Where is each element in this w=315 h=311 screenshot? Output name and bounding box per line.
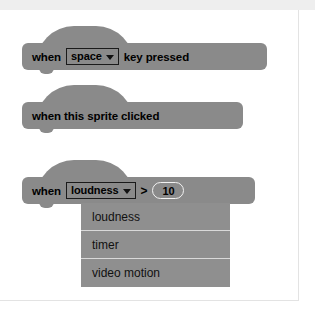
- when-keyword: when: [32, 185, 61, 197]
- block-label-row: when loudness > 10: [32, 177, 184, 204]
- page-border-bottom: [0, 300, 299, 301]
- when-keyword: when: [32, 51, 61, 63]
- key-dropdown-field[interactable]: space: [66, 48, 119, 65]
- dropdown-item-timer[interactable]: timer: [81, 231, 230, 259]
- page-canvas: when space key pressed when this sprite …: [0, 0, 315, 311]
- block-label-row: when space key pressed: [32, 43, 189, 70]
- top-band: [0, 0, 315, 10]
- greater-than-operator: >: [141, 184, 148, 198]
- key-dropdown-value: space: [71, 49, 102, 64]
- sensor-dropdown-menu[interactable]: loudness timer video motion: [81, 203, 230, 287]
- dropdown-item-loudness[interactable]: loudness: [81, 203, 230, 231]
- chevron-down-icon: [106, 55, 114, 60]
- block-label-row: when this sprite clicked: [32, 102, 159, 129]
- page-border-right: [298, 10, 299, 301]
- dropdown-item-video-motion[interactable]: video motion: [81, 259, 230, 287]
- key-pressed-suffix: key pressed: [124, 51, 189, 63]
- sensor-dropdown-field[interactable]: loudness: [66, 182, 136, 199]
- sprite-clicked-label: when this sprite clicked: [32, 110, 159, 122]
- threshold-number-input[interactable]: 10: [152, 182, 184, 199]
- chevron-down-icon: [123, 189, 131, 194]
- sensor-dropdown-value: loudness: [71, 183, 119, 198]
